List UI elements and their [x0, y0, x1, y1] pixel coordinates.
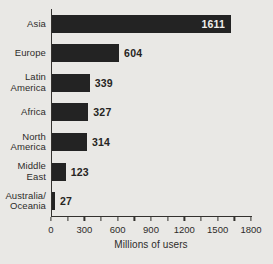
- bar: [52, 133, 87, 151]
- tick-label: 1500: [207, 224, 228, 235]
- minor-tick: [134, 217, 135, 221]
- category-axis: AsiaEuropeLatinAmericaAfricaNorthAmerica…: [0, 9, 46, 216]
- major-tick: [250, 217, 251, 221]
- category-label: Europe: [0, 39, 46, 69]
- bar-row: 327: [52, 98, 252, 128]
- major-tick: [184, 217, 185, 221]
- bar-row: 1611: [52, 9, 252, 39]
- bar-row: 27: [52, 186, 252, 216]
- bar: [52, 44, 119, 62]
- minor-tick: [234, 217, 235, 221]
- tick-label: 0: [48, 224, 53, 235]
- value-label: 604: [124, 47, 142, 59]
- minor-tick: [100, 217, 101, 221]
- minor-tick: [167, 217, 168, 221]
- x-axis-ticks: [51, 217, 251, 222]
- tick-label: 1800: [240, 224, 261, 235]
- tick-label: 300: [76, 224, 92, 235]
- category-label: Australia/Oceania: [0, 186, 46, 216]
- major-tick: [50, 217, 51, 221]
- value-label: 1611: [201, 18, 231, 30]
- plot-area: 161160433932731412327: [51, 9, 252, 217]
- bar-chart: AsiaEuropeLatinAmericaAfricaNorthAmerica…: [0, 0, 273, 264]
- x-axis-tick-labels: 0300600900120015001800: [51, 224, 251, 235]
- category-label: LatinAmerica: [0, 68, 46, 98]
- major-tick: [117, 217, 118, 221]
- x-axis-label: Millions of users: [51, 239, 251, 250]
- bar-row: 339: [52, 68, 252, 98]
- major-tick: [150, 217, 151, 221]
- tick-label: 600: [110, 224, 126, 235]
- value-label: 339: [95, 77, 113, 89]
- minor-tick: [67, 217, 68, 221]
- category-label: NorthAmerica: [0, 127, 46, 157]
- bar-row: 604: [52, 39, 252, 69]
- tick-label: 900: [143, 224, 159, 235]
- bar-row: 314: [52, 127, 252, 157]
- bar: [52, 192, 55, 210]
- bar: [52, 74, 90, 92]
- bar-row: 123: [52, 157, 252, 187]
- minor-tick: [200, 217, 201, 221]
- value-label: 123: [71, 166, 89, 178]
- value-label: 27: [60, 195, 72, 207]
- category-label: Africa: [0, 98, 46, 128]
- major-tick: [84, 217, 85, 221]
- bar: [52, 163, 66, 181]
- bar: [52, 103, 88, 121]
- value-label: 327: [93, 106, 111, 118]
- value-label: 314: [92, 136, 110, 148]
- bar: 1611: [52, 15, 231, 33]
- category-label: MiddleEast: [0, 157, 46, 187]
- tick-label: 1200: [174, 224, 195, 235]
- category-label: Asia: [0, 9, 46, 39]
- major-tick: [217, 217, 218, 221]
